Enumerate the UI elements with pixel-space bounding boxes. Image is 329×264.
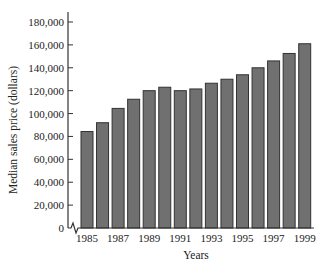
y-tick-label: 120,000 xyxy=(28,85,64,97)
bar-1985 xyxy=(81,132,93,228)
bar-1991 xyxy=(174,91,186,228)
y-tick-label: 60,000 xyxy=(34,153,65,165)
y-tick-label: 0 xyxy=(59,222,65,234)
bar-1989 xyxy=(143,91,155,228)
x-tick-label: 1987 xyxy=(107,232,130,244)
bar-1993 xyxy=(205,83,217,228)
bar-1997 xyxy=(268,61,280,228)
bar-1995 xyxy=(237,75,249,228)
x-tick-label: 1993 xyxy=(200,232,223,244)
bar-1990 xyxy=(159,87,171,228)
y-axis: 020,00040,00060,00080,000100,000120,0001… xyxy=(28,12,73,234)
x-tick-label: 1999 xyxy=(294,232,317,244)
y-axis-title: Median sales price (dollars) xyxy=(7,66,20,194)
bar-1992 xyxy=(190,89,202,228)
x-tick-label: 1995 xyxy=(232,232,255,244)
bar-1999 xyxy=(299,44,311,228)
bar-1987 xyxy=(112,108,124,228)
x-tick-label: 1989 xyxy=(138,232,161,244)
x-axis-title: Years xyxy=(183,249,209,261)
x-tick-label: 1985 xyxy=(76,232,99,244)
y-tick-label: 40,000 xyxy=(34,176,65,188)
y-tick-label: 20,000 xyxy=(34,199,65,211)
y-tick-label: 100,000 xyxy=(28,108,64,120)
x-tick-label: 1997 xyxy=(263,232,286,244)
bar-1998 xyxy=(283,53,295,228)
y-tick-label: 80,000 xyxy=(34,130,65,142)
bar-1996 xyxy=(252,68,264,228)
x-tick-label: 1991 xyxy=(169,232,191,244)
y-tick-label: 140,000 xyxy=(28,62,64,74)
bar-1986 xyxy=(97,123,109,228)
y-tick-label: 180,000 xyxy=(28,16,64,28)
y-tick-label: 160,000 xyxy=(28,39,64,51)
bars xyxy=(81,44,311,228)
bar-chart: 020,00040,00060,00080,000100,000120,0001… xyxy=(0,0,329,264)
bar-1994 xyxy=(221,79,233,228)
bar-1988 xyxy=(128,99,140,228)
